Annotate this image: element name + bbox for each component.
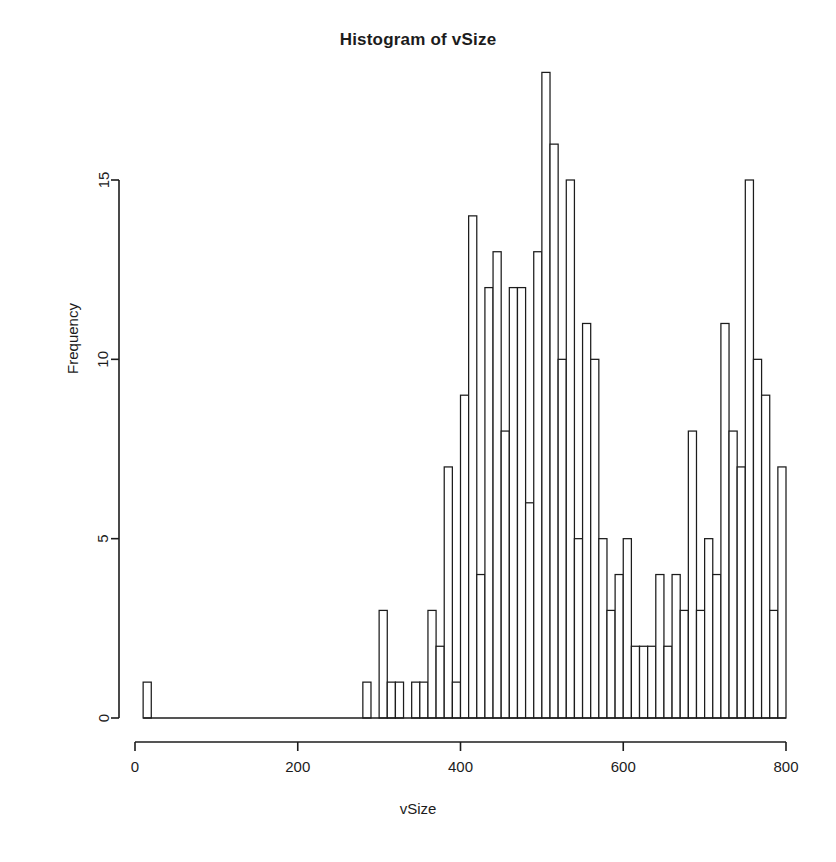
x-axis: 0200400600800 xyxy=(131,742,799,775)
histogram-bar xyxy=(387,682,395,718)
histogram-bar xyxy=(623,539,631,718)
x-tick-label: 800 xyxy=(773,758,798,775)
histogram-bar xyxy=(542,72,550,718)
histogram-bar xyxy=(534,252,542,718)
y-tick-label: 15 xyxy=(95,172,112,189)
histogram-bar xyxy=(420,682,428,718)
histogram-bar xyxy=(696,610,704,718)
x-tick-label: 0 xyxy=(131,758,139,775)
histogram-bar xyxy=(737,467,745,718)
histogram-bar xyxy=(558,359,566,718)
histogram-bar xyxy=(721,323,729,718)
y-tick-label: 10 xyxy=(95,351,112,368)
histogram-bar xyxy=(778,467,786,718)
histogram-bar xyxy=(688,431,696,718)
histogram-bar xyxy=(412,682,420,718)
y-tick-label: 5 xyxy=(95,534,112,542)
histogram-bar xyxy=(753,359,761,718)
histogram-bar xyxy=(770,610,778,718)
histogram-bar xyxy=(493,252,501,718)
histogram-bar xyxy=(705,539,713,718)
histogram-bar xyxy=(615,575,623,718)
histogram-bar xyxy=(452,682,460,718)
histogram-bar xyxy=(713,575,721,718)
histogram-bar xyxy=(461,395,469,718)
histogram-bar xyxy=(631,646,639,718)
histogram-bar xyxy=(143,682,151,718)
histogram-bar xyxy=(517,288,525,718)
histogram-bar xyxy=(591,359,599,718)
histogram-bar xyxy=(501,431,509,718)
histogram-bar xyxy=(509,288,517,718)
histogram-bar xyxy=(395,682,403,718)
histogram-bar xyxy=(379,610,387,718)
histogram-bar xyxy=(648,646,656,718)
histogram-bar xyxy=(566,180,574,718)
x-tick-label: 200 xyxy=(285,758,310,775)
y-axis: 051015 xyxy=(95,172,120,723)
histogram-bar xyxy=(729,431,737,718)
histogram-bar xyxy=(485,288,493,718)
histogram-bar xyxy=(477,575,485,718)
histogram-bar xyxy=(672,575,680,718)
y-tick-label: 0 xyxy=(95,714,112,722)
histogram-canvas: 051015 0200400600800 xyxy=(0,0,836,862)
histogram-bar xyxy=(550,144,558,718)
histogram-bar xyxy=(656,575,664,718)
histogram-bar xyxy=(607,610,615,718)
histogram-bar xyxy=(526,503,534,718)
histogram-bar xyxy=(599,539,607,718)
histogram-bar xyxy=(640,646,648,718)
histogram-bar xyxy=(583,323,591,718)
histogram-bar xyxy=(469,216,477,718)
plot-root: Histogram of vSize Frequency vSize 05101… xyxy=(0,0,836,862)
histogram-bar xyxy=(745,180,753,718)
histogram-bar xyxy=(444,467,452,718)
histogram-bar xyxy=(574,539,582,718)
histogram-bar xyxy=(436,646,444,718)
histogram-bar xyxy=(680,610,688,718)
histogram-bar xyxy=(428,610,436,718)
x-tick-label: 400 xyxy=(448,758,473,775)
x-tick-label: 600 xyxy=(611,758,636,775)
histogram-bar xyxy=(363,682,371,718)
histogram-bar xyxy=(762,395,770,718)
histogram-bar xyxy=(664,646,672,718)
bars-group xyxy=(143,72,786,718)
